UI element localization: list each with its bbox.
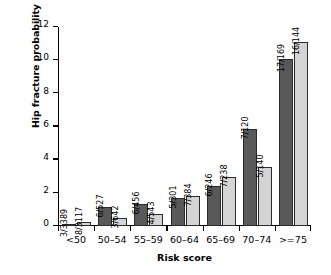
bar-group: 17/16916/144>=75 <box>276 27 310 226</box>
plot-area: 0246810123/33898/3117<506/5273/64250–546… <box>58 27 311 226</box>
y-axis-tick-label: 0 <box>25 218 49 228</box>
bar-group: 3/33898/3117<50 <box>59 27 93 226</box>
x-axis-tick <box>203 226 204 231</box>
y-axis-tick: 8 <box>53 92 58 93</box>
bar-series-b: 5/140 <box>258 167 272 226</box>
bar-group: 6/4564/54355–59 <box>131 27 165 226</box>
x-axis-tick <box>275 226 276 231</box>
x-axis-category-label: 55–59 <box>134 234 163 245</box>
bar-value-label: 6/527 <box>97 195 105 218</box>
bar-series-b: 7/238 <box>222 177 236 226</box>
y-axis-tick-label: 2 <box>25 185 49 195</box>
y-axis-tick: 12 <box>53 26 58 27</box>
bar-value-label: 16/144 <box>293 27 301 55</box>
y-axis-tick-label: 4 <box>25 152 49 162</box>
y-axis-tick-label: 6 <box>25 119 49 129</box>
y-axis-tick-label: 8 <box>25 86 49 96</box>
x-axis-category-label: 50–54 <box>98 234 127 245</box>
y-axis-tick-label: 12 <box>25 19 49 29</box>
bar-value-label: 7/120 <box>242 117 250 140</box>
x-axis-title: Risk score <box>58 252 311 263</box>
x-axis-category-label: <50 <box>66 234 86 245</box>
hip-fracture-probability-bar-chart: Hip fracture probability (%) 0246810123/… <box>0 0 331 275</box>
bar-group: 5/3017/38460–64 <box>168 27 202 226</box>
bar-value-label: 6/246 <box>206 173 214 196</box>
bar-value-label: 5/140 <box>257 154 265 177</box>
y-axis-tick: 2 <box>53 192 58 193</box>
bar-series-a: 3/3389 <box>62 224 76 226</box>
x-axis-category-label: 60–64 <box>170 234 199 245</box>
bar-value-label: 7/384 <box>185 183 193 206</box>
bar-series-b: 3/642 <box>113 218 127 226</box>
x-axis-category-label: >=75 <box>279 234 307 245</box>
bar-value-label: 5/301 <box>170 186 178 209</box>
bar-group: 6/5273/64250–54 <box>95 27 129 226</box>
bar-series-a: 5/301 <box>171 198 185 226</box>
bar-value-label: 7/238 <box>221 165 229 188</box>
bar-value-label: 17/169 <box>278 44 286 72</box>
bar-series-b: 8/3117 <box>77 222 91 226</box>
bar-series-b: 4/543 <box>149 214 163 226</box>
x-axis-tick <box>166 226 167 231</box>
bar-value-label: 6/456 <box>133 192 141 215</box>
x-axis-tick <box>94 226 95 231</box>
x-axis-category-label: 65–69 <box>206 234 235 245</box>
y-axis-tick: 10 <box>53 59 58 60</box>
bar-series-b: 7/384 <box>186 196 200 226</box>
bar-group: 7/1205/14070–74 <box>240 27 274 226</box>
bar-value-label: 8/3117 <box>76 207 84 235</box>
y-axis-tick-label: 10 <box>25 52 49 62</box>
bar-value-label: 3/642 <box>112 206 120 229</box>
x-axis-category-label: 70–74 <box>242 234 271 245</box>
bar-series-a: 6/246 <box>207 186 221 226</box>
bar-value-label: 4/543 <box>148 201 156 224</box>
bar-series-a: 17/169 <box>279 59 293 226</box>
bar-series-a: 7/120 <box>243 129 257 226</box>
bar-value-label: 3/3389 <box>61 209 69 237</box>
x-axis-tick <box>58 226 59 231</box>
y-axis-tick: 4 <box>53 158 58 159</box>
bar-group: 6/2467/23865–69 <box>204 27 238 226</box>
x-axis-tick <box>239 226 240 231</box>
x-axis-tick <box>130 226 131 231</box>
bar-series-b: 16/144 <box>294 42 308 226</box>
y-axis-tick: 6 <box>53 125 58 126</box>
x-axis-tick <box>310 226 311 231</box>
